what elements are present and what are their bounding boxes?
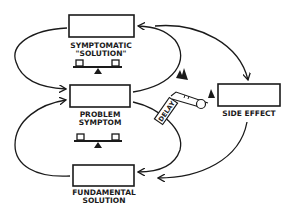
delay-marker: DELAY	[154, 97, 177, 124]
problem-symptom-box	[70, 85, 130, 107]
arrow-fundamental-to-problem	[15, 100, 70, 176]
seesaw-balance-icon	[74, 134, 122, 148]
snowball-reinforcing-icon	[171, 68, 215, 109]
node-symptomatic-solution: SYMPTOMATIC "SOLUTION"	[69, 15, 134, 58]
node-fundamental-solution: FUNDAMENTAL SOLUTION	[72, 165, 136, 205]
arrow-problem-to-fundamental	[133, 102, 181, 172]
arrow-symptomatic-to-side-effect	[155, 26, 248, 80]
fundamental-label-line2: SOLUTION	[83, 196, 126, 205]
symptomatic-solution-box	[69, 15, 134, 37]
side-effect-label: SIDE EFFECT	[222, 109, 276, 118]
node-problem-symptom: PROBLEM SYMPTOM	[70, 85, 130, 127]
problem-label-line2: SYMPTOM	[79, 118, 122, 127]
arrow-symptomatic-to-problem	[15, 28, 67, 89]
side-effect-box	[218, 84, 280, 106]
symptomatic-label-line2: "SOLUTION"	[76, 49, 127, 58]
node-side-effect: SIDE EFFECT	[218, 84, 280, 118]
diagram-canvas: SYMPTOMATIC "SOLUTION" PROBLEM SYMPTOM F…	[0, 0, 299, 218]
arrow-problem-to-symptomatic	[133, 26, 181, 92]
fundamental-solution-box	[73, 165, 134, 186]
arrow-side-effect-to-fundamental	[158, 122, 247, 178]
seesaw-balance-icon	[73, 60, 122, 74]
